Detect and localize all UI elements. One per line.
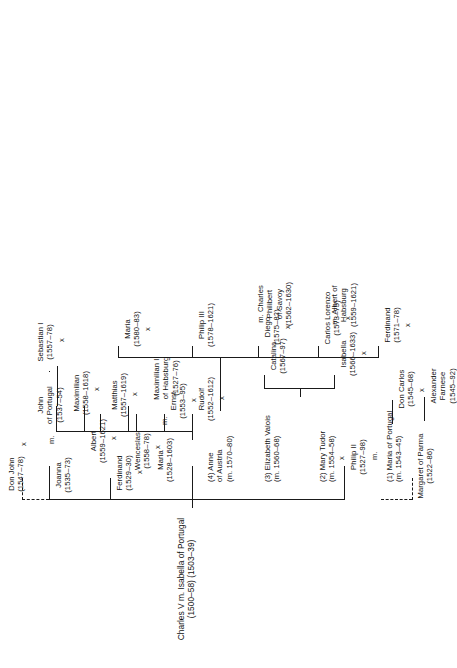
branch-ferdinand-1571 [378, 346, 379, 358]
maria-1528-dates: (1528–1603) [165, 432, 174, 488]
anne-of-austria-dates: (m. 1570–80) [225, 412, 234, 482]
node-ferdinand-1571: Ferdinand (1571–78) [383, 296, 402, 354]
diego-name: Diego [263, 300, 272, 354]
don-carlos-name: Don Carlos [397, 362, 406, 416]
branch-diego [258, 346, 259, 358]
branch-ernst [164, 414, 165, 432]
branch-philip-ii [344, 466, 345, 500]
branch-carlos-lorenzo [318, 346, 319, 358]
philip-ii-dates: (1527–98) [358, 432, 367, 482]
ferdinand-1529-dates: (1529–30) [124, 444, 133, 502]
node-ferdinand-1529: Ferdinand (1529–30) [115, 444, 134, 502]
wenceslas-dates: (1558–78) [142, 418, 151, 484]
alexander-farnese-name2: Farnese [438, 356, 447, 416]
carlos-lorenzo-dates: (1573–75) [332, 282, 341, 354]
matthias-mark: x [131, 392, 139, 396]
elizabeth-valois-dates: (m. 1560–68) [272, 387, 281, 482]
node-maria-1580: Maria (1580–83) [123, 304, 142, 354]
branch-wenceslas [128, 406, 129, 432]
ferdinand-1571-dates: (1571–78) [392, 296, 401, 354]
valois-stem [300, 388, 301, 397]
branch-alexander-farnese [424, 397, 425, 421]
branch-don-carlos [392, 400, 393, 424]
node-maximilian-1558: Maximilian (1558–1618) [72, 360, 91, 426]
maria-1528-name: Maria [156, 432, 165, 488]
node-diego: Diego (1575–82) [263, 300, 282, 354]
node-rudolf: Rudolf (1552–1612) [197, 372, 216, 426]
node-ernst: Ernst (1553–95) [169, 376, 188, 426]
don-carlos-dates: (1545–68) [406, 362, 415, 416]
node-matthias: Matthias (1557–1619) [110, 364, 129, 426]
don-john-mark: x [20, 442, 28, 446]
don-john-dates: (1547–78) [16, 448, 25, 500]
node-wenceslas: Wenceslas (1558–78) [133, 418, 152, 484]
matthias-name: Matthias [110, 364, 119, 426]
philip-ii-name: Philip II [349, 432, 358, 482]
node-john-of-portugal: John of Portugal (1537–54) [36, 376, 64, 434]
diego-dates: (1575–82) [272, 300, 281, 354]
node-carlos-lorenzo: Carlos Lorenzo (1573–75) [323, 282, 342, 354]
node-elizabeth-valois: (3) Elizabeth Valois (m. 1560–68) [263, 387, 282, 482]
ferdinand-1529-name: Ferdinand [115, 444, 124, 502]
node-don-john: Don John (1547–78) [7, 448, 26, 500]
margaret-of-parma-dates: (1522–86) [425, 426, 434, 506]
john-of-portugal-name2: of Portugal [45, 376, 54, 434]
alexander-farnese-dates: (1545–92) [448, 356, 457, 416]
branch-rudolf [192, 414, 193, 432]
margaret-dashed-horizontal [412, 478, 413, 500]
ernst-dates: (1553–95) [178, 376, 187, 426]
root-title: Charles V m. Isabella of Portugal (1500–… [176, 504, 197, 654]
john-of-portugal-name: John [36, 376, 45, 434]
joanna-marriage-mark: m. [48, 436, 56, 444]
ernst-name: Ernst [169, 376, 178, 426]
branch-catalina [264, 375, 265, 389]
node-sebastian-i: Sebastian I (1557–78) [36, 312, 55, 372]
node-don-carlos: Don Carlos (1545–68) [397, 362, 416, 416]
margaret-dashed-vertical [381, 499, 412, 500]
maximilian-ii-name: Maximilian II [152, 343, 161, 413]
maria-1580-name: Maria [123, 304, 132, 354]
philip-iii-name: Philip III [197, 296, 206, 354]
branch-isabella [334, 375, 335, 389]
node-albert-1559: Albert (1559–1621) [89, 412, 108, 470]
sebastian-i-name: Sebastian I [36, 312, 45, 372]
don-john-name: Don John [7, 448, 16, 500]
rudolf-dates: (1552–1612) [206, 372, 215, 426]
albert-1559-mark: x [110, 436, 118, 440]
branch-sebastian-i [57, 366, 58, 406]
rudolf-mark: x [218, 396, 226, 400]
branch-maria-1580 [118, 346, 119, 358]
maria-1528-marriage-mark: m. [161, 417, 169, 425]
maximilian-1558-mark: x [93, 387, 101, 391]
ernst-mark: x [190, 398, 198, 402]
rudolf-name: Rudolf [197, 372, 206, 426]
branch-ferdinand-1529 [110, 478, 111, 500]
ferdinand-1571-name: Ferdinand [383, 296, 392, 354]
joanna-name: Joanna [54, 448, 63, 502]
isabella-mark: x [360, 351, 368, 355]
anne-of-austria-name2: of Austria [215, 412, 224, 482]
maria-1580-dates: (1580–83) [132, 304, 141, 354]
alexander-farnese-name: Alexander [429, 356, 438, 416]
sebastian-i-dates: (1557–78) [45, 312, 54, 372]
root-spine [49, 499, 344, 500]
don-john-dashed-vertical [22, 499, 49, 500]
node-philip-iii: Philip III (1578–1621) [197, 296, 216, 354]
ferdinand-1571-mark: x [404, 323, 412, 327]
wenceslas-name: Wenceslas [133, 418, 142, 484]
philip-iii-dates: (1578–1621) [206, 296, 215, 354]
valois-children-spine [264, 388, 334, 389]
joanna-dates: (1535–73) [63, 448, 72, 502]
node-alexander-farnese: Alexander Farnese (1545–92) [429, 356, 457, 416]
root-stem [192, 499, 193, 508]
maria-children-stem [192, 431, 193, 440]
root-title-line2: (1500–58) (1503–39) [186, 540, 196, 619]
albert-1559-dates: (1559–1621) [98, 412, 107, 470]
root-title-line1: Charles V m. Isabella of Portugal [176, 518, 186, 640]
maria-children-spine [56, 431, 192, 432]
mary-tudor-dates: (m. 1554–58) [327, 392, 336, 482]
node-joanna: Joanna (1535–73) [54, 448, 73, 502]
elizabeth-valois-name: (3) Elizabeth Valois [263, 387, 272, 482]
branch-albert-1559 [84, 406, 85, 432]
